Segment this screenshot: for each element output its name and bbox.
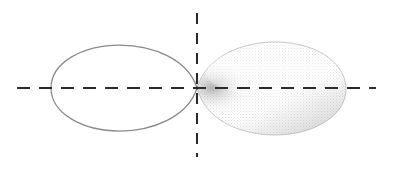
node-point	[195, 86, 198, 89]
right-lobe	[172, 35, 355, 145]
p-orbital-diagram: p-orbital Two-lobed p atomic orbital wit…	[0, 0, 405, 184]
orbital-canvas	[0, 0, 405, 184]
